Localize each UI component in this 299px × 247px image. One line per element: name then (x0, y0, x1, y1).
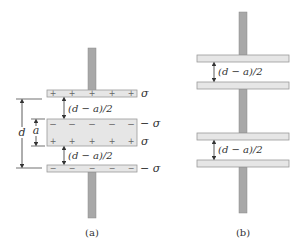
svg-text:−: − (88, 119, 96, 129)
rod-top (88, 48, 96, 91)
rod-top (239, 12, 247, 55)
plate-3 (197, 133, 289, 140)
panel-a: + + + + + σ (d − a)/2 − − − − − + + + + … (16, 48, 161, 238)
capacitor-diagram: + + + + + σ (d − a)/2 − − − − − + + + + … (0, 0, 299, 247)
svg-text:+: + (89, 89, 96, 98)
svg-text:+: + (69, 89, 76, 98)
a-label: a (33, 124, 40, 137)
rod-bottom (239, 167, 247, 213)
panel-a-caption: (a) (85, 227, 99, 238)
svg-text:+: + (50, 137, 57, 146)
upper-gap-label: (d − a)/2 (68, 103, 113, 114)
plate-4 (197, 160, 289, 167)
svg-text:+: + (109, 89, 116, 98)
svg-text:+: + (69, 137, 76, 146)
svg-text:−: − (128, 164, 135, 173)
upper-gap-label: (d − a)/2 (218, 66, 263, 77)
svg-text:+: + (109, 137, 116, 146)
slab-bottom-charge-label: σ (141, 135, 149, 148)
panel-b-caption: (b) (236, 227, 250, 238)
plate-1 (197, 55, 289, 62)
plate-2 (197, 82, 289, 89)
svg-text:−: − (109, 164, 116, 173)
svg-text:+: + (89, 137, 96, 146)
svg-text:−: − (50, 164, 57, 173)
svg-text:+: + (128, 89, 135, 98)
slab-top-charge-label: − σ (140, 117, 161, 130)
svg-text:−: − (127, 119, 135, 129)
svg-text:−: − (108, 119, 116, 129)
lower-gap-label: (d − a)/2 (68, 150, 113, 161)
svg-text:+: + (128, 137, 135, 146)
svg-text:−: − (68, 119, 76, 129)
svg-text:+: + (50, 89, 57, 98)
svg-text:−: − (69, 164, 76, 173)
svg-text:−: − (49, 119, 57, 129)
panel-b: (d − a)/2 (d − a)/2 (b) (197, 12, 289, 238)
lower-gap-label: (d − a)/2 (218, 144, 263, 155)
top-plate-charge-label: σ (141, 87, 149, 100)
d-label: d (18, 126, 25, 139)
bottom-plate-charge-label: − σ (140, 162, 161, 175)
rod-bottom (88, 172, 96, 218)
svg-text:−: − (89, 164, 96, 173)
rod-middle (239, 89, 247, 133)
